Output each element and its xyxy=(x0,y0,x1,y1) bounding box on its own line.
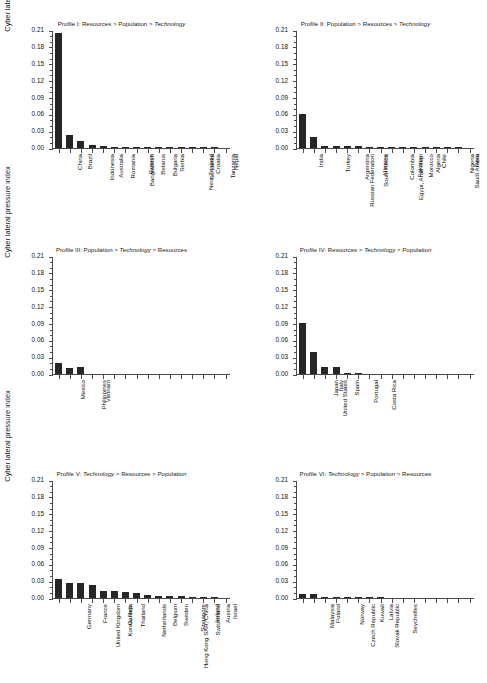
y-tick-label: 0.18 xyxy=(32,43,44,50)
y-tick-minor xyxy=(294,143,297,144)
y-tick-minor xyxy=(50,53,53,54)
bar xyxy=(410,147,417,148)
x-tick xyxy=(470,149,471,153)
bar xyxy=(355,373,362,374)
y-tick-minor xyxy=(50,268,53,269)
x-axis-category-label: Seychelles xyxy=(412,604,419,633)
y-tick-label: 0.00 xyxy=(32,144,44,151)
bar xyxy=(66,135,73,148)
y-tick-minor xyxy=(50,318,53,319)
x-tick xyxy=(114,149,115,153)
bar xyxy=(77,583,84,598)
y-tick-minor xyxy=(50,104,53,105)
y-tick-minor xyxy=(50,503,53,504)
y-tick-major: 0.21 xyxy=(49,481,53,482)
x-tick xyxy=(314,149,315,153)
y-tick-major: 0.06 xyxy=(293,115,297,116)
x-axis-category-label: Czech Republic xyxy=(370,604,377,647)
bar xyxy=(122,147,129,148)
x-tick xyxy=(192,149,193,153)
y-tick-minor xyxy=(50,542,53,543)
x-axis-category-label: Vietnam xyxy=(106,380,113,402)
bar xyxy=(133,593,140,598)
y-tick-minor xyxy=(50,352,53,353)
y-tick-major: 0.06 xyxy=(49,115,53,116)
y-tick-major: 0.21 xyxy=(293,257,297,258)
x-tick xyxy=(403,599,404,603)
x-axis-category-label: Kuwait xyxy=(379,604,386,622)
x-tick xyxy=(70,149,71,153)
y-tick-label: 0.09 xyxy=(276,320,288,327)
x-tick xyxy=(381,375,382,379)
bar xyxy=(166,147,173,148)
y-tick-major: 0.12 xyxy=(49,531,53,532)
x-tick xyxy=(226,149,227,153)
bar xyxy=(321,146,328,148)
bar xyxy=(299,323,306,374)
x-tick xyxy=(458,599,459,603)
y-tick-label: 0.06 xyxy=(32,336,44,343)
y-tick-minor xyxy=(294,503,297,504)
y-tick-minor xyxy=(50,70,53,71)
y-tick-major: 0.03 xyxy=(49,582,53,583)
y-tick-minor xyxy=(50,285,53,286)
y-tick-major: 0.03 xyxy=(293,582,297,583)
x-tick xyxy=(181,375,182,379)
y-tick-major: 0.00 xyxy=(293,599,297,600)
x-axis-category-label: Argentina xyxy=(365,154,372,180)
y-tick-label: 0.06 xyxy=(32,560,44,567)
y-tick-major: 0.18 xyxy=(49,497,53,498)
bar xyxy=(77,367,84,374)
bar xyxy=(299,114,306,148)
bar xyxy=(200,597,207,598)
x-axis-category-label: Romania xyxy=(130,154,137,178)
y-tick-minor xyxy=(50,279,53,280)
y-tick-major: 0.15 xyxy=(49,64,53,65)
x-axis-category-label: Colombia xyxy=(409,154,416,180)
y-tick-major: 0.03 xyxy=(293,132,297,133)
x-tick xyxy=(159,599,160,603)
x-tick xyxy=(303,599,304,603)
bar xyxy=(299,594,306,598)
y-tick-minor xyxy=(50,593,53,594)
x-tick xyxy=(447,375,448,379)
y-tick-minor xyxy=(50,75,53,76)
x-tick xyxy=(425,599,426,603)
x-tick xyxy=(192,599,193,603)
y-tick-minor xyxy=(294,120,297,121)
x-tick xyxy=(92,375,93,379)
x-tick xyxy=(159,375,160,379)
x-axis-category-label: Belarus xyxy=(160,154,167,175)
x-tick xyxy=(226,599,227,603)
y-tick-label: 0.21 xyxy=(32,252,44,259)
bar xyxy=(310,352,317,374)
y-tick-major: 0.09 xyxy=(293,98,297,99)
x-axis-category-label: Pakistan xyxy=(417,154,424,177)
y-tick-label: 0.03 xyxy=(32,577,44,584)
y-tick-minor xyxy=(294,330,297,331)
x-tick xyxy=(92,599,93,603)
x-axis-category-label: Netherlands xyxy=(161,604,168,637)
y-tick-major: 0.15 xyxy=(49,290,53,291)
x-tick xyxy=(148,149,149,153)
x-tick xyxy=(436,149,437,153)
x-tick xyxy=(59,149,60,153)
bar xyxy=(377,597,384,598)
y-axis-label: Cyber lateral pressure index xyxy=(2,0,13,50)
x-tick xyxy=(125,375,126,379)
x-tick xyxy=(214,599,215,603)
bar xyxy=(200,147,207,148)
x-tick xyxy=(425,375,426,379)
y-tick-major: 0.09 xyxy=(49,98,53,99)
y-tick-minor xyxy=(294,492,297,493)
x-tick xyxy=(125,149,126,153)
y-tick-major: 0.09 xyxy=(293,548,297,549)
chart-panel-i: Profile I: Resources > Population > Tech… xyxy=(0,2,243,229)
x-tick xyxy=(170,375,171,379)
y-tick-major: 0.12 xyxy=(293,307,297,308)
y-tick-major: 0.15 xyxy=(293,290,297,291)
y-tick-major: 0.21 xyxy=(49,31,53,32)
x-tick xyxy=(325,599,326,603)
x-axis-category-label: India xyxy=(318,154,325,167)
y-tick-label: 0.06 xyxy=(32,110,44,117)
